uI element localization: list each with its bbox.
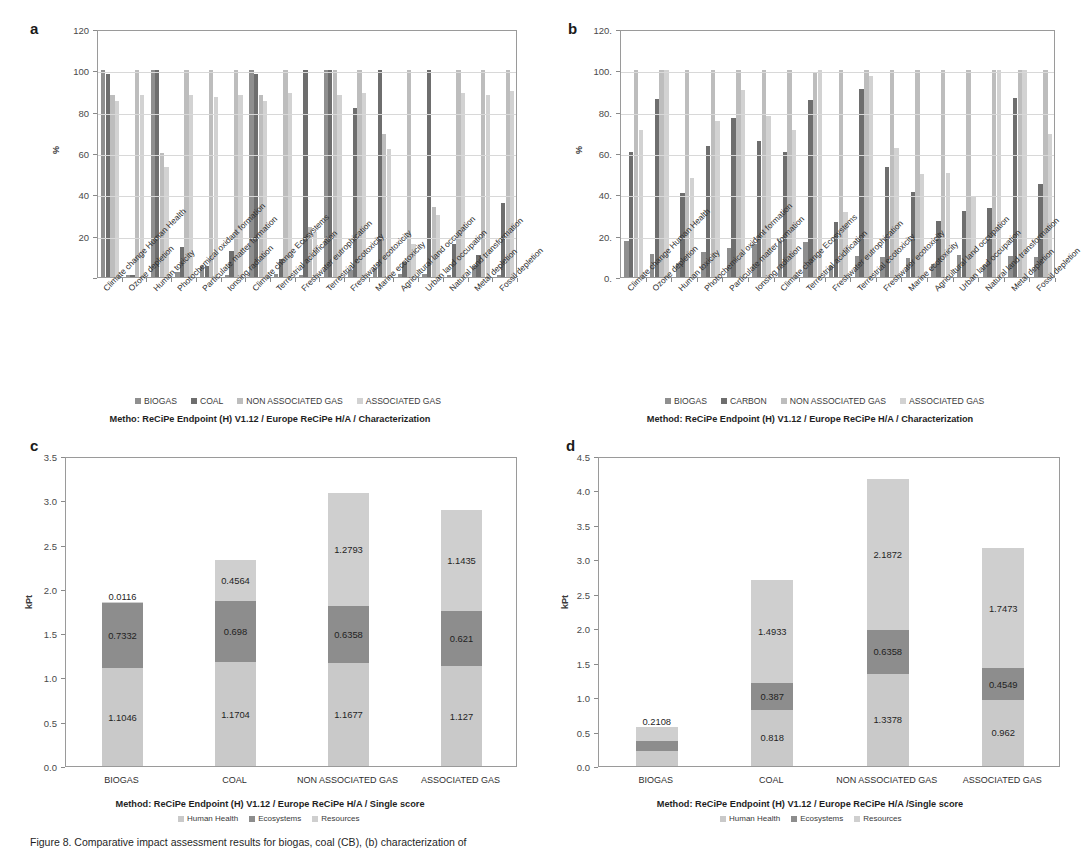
legend-label: Ecosystems (258, 814, 301, 823)
segment-value-label: 0.698 (224, 626, 247, 637)
panel-d-plot-area: 0.21140.14620.21080.8180.3871.49331.3378… (598, 457, 1060, 767)
panel-b-legend: BIOGASCARBONNON ASSOCIATED GASASSOCIATED… (665, 396, 984, 406)
stack-segment-human-health: 0.962 (982, 700, 1024, 766)
legend-item-a-1: COAL (191, 396, 223, 406)
y-tick-label: 60. (599, 149, 612, 160)
stack-segment-resources: 0.4564 (215, 560, 256, 600)
segment-value-label: 0.962 (992, 727, 1015, 738)
segment-value-label: 0.7332 (108, 630, 137, 641)
y-tick-label: 4.0 (577, 486, 590, 497)
gridline (98, 155, 516, 156)
x-axis-group-label: ASSOCIATED GAS (421, 775, 500, 785)
panel-b-caption: Method: ReCiPe Endpoint (H) V1.12 / Euro… (540, 414, 1080, 424)
y-tick-label: 1.5 (44, 629, 57, 640)
legend-swatch-icon (900, 398, 906, 404)
stack-segment-ecosystems: 0.6358 (328, 606, 369, 662)
stack-segment-resources: 1.4933 (751, 580, 793, 683)
y-tick-label: 2.5 (44, 540, 57, 551)
y-tick-mark (61, 723, 65, 724)
stack-segment-human-health: 0.2114 (636, 751, 678, 766)
y-tick-mark (93, 278, 97, 279)
stack-segment-human-health: 1.1046 (102, 668, 143, 766)
segment-value-label: 1.127 (450, 711, 473, 722)
legend-label: NON ASSOCIATED GAS (790, 396, 886, 406)
segment-value-label: 1.4933 (758, 626, 787, 637)
y-tick-mark (616, 278, 620, 279)
y-tick-label: 0.5 (44, 717, 57, 728)
panel-c-caption: Method: ReCiPe Endpoint (H) V1.12 / Euro… (0, 799, 540, 809)
y-tick-mark (616, 195, 620, 196)
stacked-bar-d-2: 1.33780.63582.1872 (867, 479, 909, 766)
stack-segment-resources: 2.1872 (867, 479, 909, 630)
legend-label: Resources (863, 814, 901, 823)
segment-value-label: 0.4564 (221, 575, 250, 586)
y-tick-mark (594, 491, 598, 492)
stacked-bar-c-2: 1.16770.63581.2793 (328, 493, 369, 766)
segment-value-label: 0.4549 (989, 679, 1018, 690)
y-tick-label: 60 (78, 149, 89, 160)
panel-d-legend: Human HealthEcosystemsResources (720, 814, 902, 823)
panel-a-caption: Metho: ReCiPe Endpoint (H) V1.12 / Europ… (0, 414, 540, 424)
y-tick-mark (61, 767, 65, 768)
segment-value-label: 0.621 (450, 633, 473, 644)
y-tick-label: 120. (594, 25, 613, 36)
legend-swatch-icon (191, 398, 197, 404)
segment-value-label: 2.1872 (873, 549, 902, 560)
stack-segment-resources: 1.1435 (441, 510, 482, 611)
x-axis-group-label: ASSOCIATED GAS (963, 775, 1042, 785)
y-tick-label: 40 (78, 190, 89, 201)
x-axis-group-label: COAL (759, 775, 784, 785)
y-tick-mark (616, 71, 620, 72)
y-tick-mark (61, 501, 65, 502)
segment-value-label: 1.1677 (334, 709, 363, 720)
stack-segment-human-health: 1.127 (441, 666, 482, 766)
y-tick-label: 4.5 (577, 452, 590, 463)
legend-swatch-icon (665, 398, 671, 404)
y-tick-mark (616, 154, 620, 155)
legend-item-b-1: CARBON (721, 396, 767, 406)
legend-swatch-icon (312, 816, 318, 822)
bar-b-12-3 (946, 173, 950, 277)
bar-b-11-3 (920, 174, 924, 277)
figure-caption: Figure 8. Comparative impact assessment … (0, 836, 1080, 850)
y-tick-label: 0.5 (577, 727, 590, 738)
stack-segment-ecosystems: 0.6358 (867, 630, 909, 674)
panel-c: c kPt 1.10460.73320.01161.17040.6980.456… (0, 425, 540, 825)
y-tick-mark (61, 634, 65, 635)
stack-segment-human-health: 0.818 (751, 710, 793, 766)
legend-label: ASSOCIATED GAS (909, 396, 984, 406)
legend-swatch-icon (135, 398, 141, 404)
y-tick-label: 1.5 (577, 658, 590, 669)
legend-label: BIOGAS (144, 396, 177, 406)
stack-segment-human-health: 1.3378 (867, 674, 909, 766)
stacked-bar-d-1: 0.8180.3871.4933 (751, 580, 793, 766)
y-tick-mark (93, 237, 97, 238)
gridline (98, 196, 516, 197)
gridline (621, 196, 1054, 197)
y-tick-mark (594, 526, 598, 527)
y-tick-mark (616, 113, 620, 114)
legend-item-d-2: Resources (854, 814, 901, 823)
segment-value-label: 0.2108 (642, 716, 671, 727)
legend-label: Human Health (187, 814, 238, 823)
segment-value-label: 1.1435 (447, 555, 476, 566)
legend-item-a-3: ASSOCIATED GAS (357, 396, 441, 406)
y-tick-mark (61, 678, 65, 679)
y-tick-mark (93, 113, 97, 114)
gridline (98, 114, 516, 115)
panel-d-caption: Method: ReCiPe Endpoint (H) V1.12 / Euro… (540, 799, 1080, 809)
y-tick-mark (616, 237, 620, 238)
y-tick-mark (61, 457, 65, 458)
legend-swatch-icon (357, 398, 363, 404)
legend-item-c-0: Human Health (178, 814, 238, 823)
y-tick-mark (594, 629, 598, 630)
gridline (621, 72, 1054, 73)
legend-item-c-1: Ecosystems (249, 814, 301, 823)
panel-b: b % 0.20.40.60.80.100.120. Climate chang… (540, 0, 1080, 425)
legend-swatch-icon (854, 816, 860, 822)
stacked-bar-c-0: 1.10460.73320.0116 (102, 602, 143, 766)
stack-segment-ecosystems: 0.621 (441, 611, 482, 666)
stack-segment-ecosystems: 0.7332 (102, 603, 143, 668)
legend-label: Human Health (729, 814, 780, 823)
y-tick-label: 40. (599, 190, 612, 201)
